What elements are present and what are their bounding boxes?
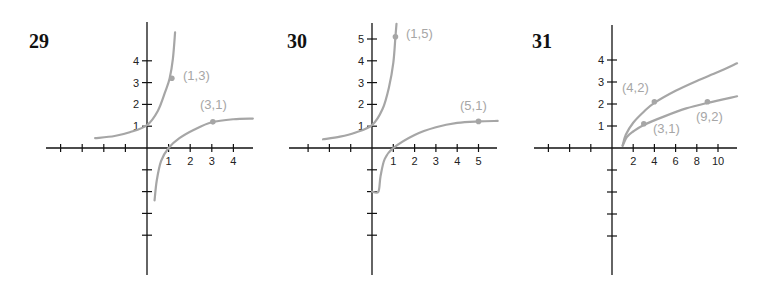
- graph-30: 30 1234512345(1,5)(5,1): [287, 23, 498, 275]
- x-tick-label: 5: [475, 155, 481, 167]
- marked-point-dot: [169, 75, 175, 81]
- y-tick-label: 4: [133, 55, 139, 67]
- exercise-number-29: 29: [29, 30, 49, 52]
- y-tick-label: 4: [358, 55, 364, 67]
- x-tick-label: 6: [673, 155, 679, 167]
- y-tick-label: 3: [133, 77, 139, 89]
- y-tick-label: 3: [598, 76, 604, 88]
- point-label: (5,1): [460, 98, 487, 113]
- x-tick-label: 2: [630, 155, 636, 167]
- x-tick-label: 2: [187, 155, 193, 167]
- graph-29: 29 12341234(1,3)(3,1): [29, 22, 253, 275]
- exercise-number-31: 31: [532, 30, 552, 52]
- x-tick-label: 4: [454, 155, 460, 167]
- x-tick-label: 2: [412, 155, 418, 167]
- exercise-number-30: 30: [287, 30, 307, 52]
- x-tick-label: 4: [230, 155, 236, 167]
- x-tick-label: 1: [390, 155, 396, 167]
- marked-point-dot: [210, 119, 216, 125]
- point-label: (9,2): [696, 109, 723, 124]
- y-tick-label: 2: [358, 98, 364, 110]
- y-tick-label: 2: [133, 98, 139, 110]
- x-tick-label: 3: [433, 155, 439, 167]
- x-tick-label: 10: [712, 155, 724, 167]
- x-tick-label: 8: [694, 155, 700, 167]
- x-tick-label: 3: [209, 155, 215, 167]
- graph-31: 31 2468101234(4,2)(3,1)(9,2): [532, 25, 737, 275]
- point-label: (4,2): [622, 80, 649, 95]
- point-label: (1,5): [406, 26, 433, 41]
- y-tick-label: 2: [598, 98, 604, 110]
- y-tick-label: 5: [358, 33, 364, 45]
- point-label: (3,1): [653, 121, 680, 136]
- y-tick-label: 4: [598, 54, 604, 66]
- y-tick-label: 1: [598, 120, 604, 132]
- marked-point-dot: [641, 121, 647, 127]
- figure-canvas: 29 12341234(1,3)(3,1) 30 1234512345(1,5)…: [0, 0, 776, 298]
- point-label: (1,3): [183, 68, 210, 83]
- marked-point-dot: [705, 99, 711, 105]
- x-tick-label: 4: [651, 155, 657, 167]
- marked-point-dot: [652, 99, 658, 105]
- x-tick-label: 1: [166, 155, 172, 167]
- point-label: (3,1): [200, 97, 227, 112]
- curve-upper-root-curve: [623, 63, 737, 146]
- marked-point-dot: [393, 34, 399, 40]
- marked-point-dot: [476, 119, 482, 125]
- y-tick-label: 3: [358, 77, 364, 89]
